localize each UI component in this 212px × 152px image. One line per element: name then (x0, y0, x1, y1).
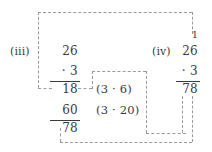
problem-three-partial-ones: 18 (44, 82, 78, 96)
dash-outer-top (38, 12, 192, 13)
annotation-ones: (3 · 6) (96, 82, 132, 96)
problem-three-label: (iii) (10, 45, 30, 58)
dash-annot-top (92, 71, 146, 72)
dash-inner-bottom (60, 142, 192, 143)
dash-inner-right (192, 96, 193, 142)
dash-annot-right (146, 71, 147, 133)
problem-three-multiplier: · 3 (44, 64, 78, 78)
dash-annot-left (92, 71, 93, 89)
problem-three-total: 78 (44, 121, 78, 135)
problem-four-multiplicand: 26 (172, 44, 198, 58)
dash-outer-left (38, 12, 39, 88)
problem-four-carry: 1 (172, 29, 198, 40)
problem-four-multiplier: · 3 (172, 64, 198, 78)
dash-link-eighteen-right (78, 88, 92, 89)
dash-annot-bottom (146, 133, 186, 134)
problem-three-partial-tens: 60 (44, 103, 78, 117)
problem-four-total: 78 (172, 82, 198, 96)
figure-canvas: (iii) 26 · 3 18 60 78 (3 · 6) (3 · 20) 1… (0, 0, 212, 152)
problem-three-multiplicand: 26 (44, 44, 78, 58)
annotation-tens: (3 · 20) (96, 103, 140, 117)
problem-four-label: (iv) (152, 45, 171, 58)
dash-inner-right-inner (182, 96, 183, 133)
